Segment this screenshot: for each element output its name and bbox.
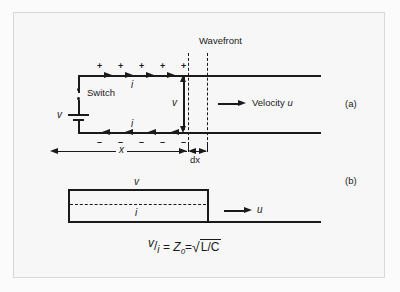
charge-positive: + (139, 62, 144, 71)
pulse-baseline (207, 221, 321, 223)
current-arrow-bottom (148, 129, 156, 135)
charge-positive: + (118, 62, 123, 71)
x-dimension-arrow-left (50, 148, 58, 154)
left-wire-bottom (78, 121, 80, 133)
battery-plate-long (68, 114, 89, 116)
velocity-symbol: u (287, 97, 292, 108)
velocity-arrow-shaft (218, 103, 240, 105)
pulse-bottom-edge (68, 221, 208, 223)
current-arrow-top (146, 72, 154, 78)
formula-numerator: v (148, 236, 154, 250)
charge-negative: – (139, 138, 144, 147)
charge-negative: – (160, 138, 165, 147)
x-dimension-arrow-right (179, 148, 187, 154)
current-arrow-top (167, 72, 175, 78)
charge-positive: + (181, 62, 186, 71)
x-dimension-label: x (116, 145, 127, 155)
formula-impedance-symbol: Z0 (173, 240, 185, 254)
formula-equals: = (163, 240, 170, 254)
source-voltage-label: v (57, 110, 62, 120)
current-arrow-top (125, 72, 133, 78)
switch-label: Switch (87, 88, 115, 98)
transmission-line-wavefront-figure: Wavefront Switch v + + + + + i i – – – –… (0, 0, 400, 292)
panel-a-label: (a) (345, 99, 357, 109)
left-wire-mid (78, 100, 80, 114)
charge-negative: – (181, 138, 186, 147)
dx-tick-right (207, 144, 208, 152)
current-arrow-top (104, 72, 112, 78)
bottom-conductor (78, 132, 321, 134)
formula-radicand: L/C (200, 239, 222, 254)
charge-positive: + (97, 62, 102, 71)
wavefront-label: Wavefront (199, 36, 242, 46)
dx-arrow-right (199, 148, 207, 154)
voltage-arrow-head-down (180, 126, 186, 133)
current-arrow-bottom (125, 129, 133, 135)
formula-radical-sign: √ (192, 239, 200, 255)
velocity-label: Velocity u (252, 98, 293, 108)
panel-b-velocity-arrow-shaft (224, 210, 246, 212)
pulse-right-edge (207, 189, 209, 222)
formula-fraction: v/i (148, 239, 160, 253)
formula-denominator: i (157, 244, 159, 255)
charge-negative: – (97, 138, 102, 147)
velocity-arrow-head (238, 100, 246, 106)
voltage-arrow-shaft (183, 77, 185, 130)
current-arrow-bottom (102, 129, 110, 135)
top-conductor (78, 75, 321, 77)
panel-b-velocity-label: u (257, 205, 263, 215)
velocity-text: Velocity (252, 97, 285, 108)
panel-b-velocity-arrow-head (244, 207, 252, 213)
dx-label: dx (190, 155, 200, 165)
current-label-bottom: i (131, 119, 133, 129)
current-label-top: i (131, 80, 133, 90)
current-arrow-bottom (171, 129, 179, 135)
panel-b-current-label: i (135, 208, 137, 218)
impedance-formula: v/i = Z0=√L/C (148, 238, 221, 256)
panel-b-label: (b) (345, 176, 357, 186)
voltage-arrow-head-up (180, 75, 186, 82)
pulse-top-edge (68, 189, 208, 191)
voltage-label: v (172, 98, 177, 108)
panel-b-voltage-label: v (134, 177, 139, 187)
pulse-center-dashed-line (70, 204, 206, 205)
pulse-left-edge (68, 189, 70, 222)
formula-impedance-letter: Z (173, 240, 180, 254)
charge-positive: + (160, 62, 165, 71)
